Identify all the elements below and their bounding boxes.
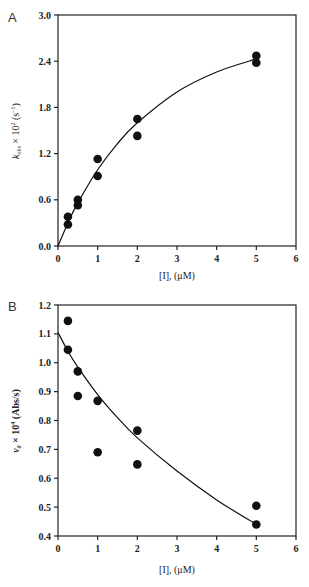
x-tick-label: 6 xyxy=(294,253,299,264)
data-point xyxy=(252,520,261,529)
y-tick-label: 3.0 xyxy=(39,10,52,21)
y-axis-label-b: v0 × 104 (Abs/s) xyxy=(10,389,22,453)
y-label-a-unit: (s xyxy=(10,113,22,123)
y-tick-label: 1.1 xyxy=(39,328,52,339)
data-point xyxy=(64,345,73,354)
data-point xyxy=(133,132,142,141)
y-tick-label: 0.5 xyxy=(39,502,52,513)
plot-frame-a xyxy=(58,15,296,246)
y-label-b-unit: (Abs/s) xyxy=(10,389,22,422)
data-point xyxy=(93,172,102,181)
data-points-b xyxy=(64,317,261,529)
x-axis-label-b: [I], (μM) xyxy=(159,564,195,576)
data-point xyxy=(133,460,142,469)
data-point xyxy=(252,58,261,67)
x-tick-label: 3 xyxy=(175,543,180,554)
y-label-a-close: ) xyxy=(10,103,22,106)
y-tick-label: 1.0 xyxy=(39,357,52,368)
y-tick-label: 0.7 xyxy=(39,444,52,455)
data-point xyxy=(133,426,142,435)
y-tick-label: 1.2 xyxy=(39,300,52,311)
fit-curve-b xyxy=(58,332,256,524)
y-ticks-b: 0.40.50.60.70.80.91.01.11.2 xyxy=(39,300,59,542)
fit-curve-a xyxy=(58,59,256,246)
figure: A 0123456 0.00.61.21.82.43.0 [I], (μM) k… xyxy=(0,0,309,587)
data-point xyxy=(252,501,261,510)
y-label-a-mid: × 10 xyxy=(10,126,21,147)
data-point xyxy=(64,317,73,326)
x-tick-label: 0 xyxy=(56,543,61,554)
y-tick-label: 2.4 xyxy=(39,56,52,67)
x-tick-label: 5 xyxy=(254,543,259,554)
plot-frame-b xyxy=(58,305,296,536)
y-ticks-a: 0.00.61.21.82.43.0 xyxy=(39,10,59,252)
y-tick-label: 0.4 xyxy=(39,531,52,542)
data-point xyxy=(93,155,102,164)
data-point xyxy=(133,115,142,124)
data-point xyxy=(64,212,73,221)
x-tick-label: 1 xyxy=(95,543,100,554)
panel-a: A 0123456 0.00.61.21.82.43.0 [I], (μM) k… xyxy=(8,10,299,283)
x-tick-label: 4 xyxy=(214,543,219,554)
y-axis-label-a: kobs × 102 (s−1) xyxy=(10,103,22,159)
x-axis-label-a: [I], (μM) xyxy=(159,270,195,282)
panel-label-b: B xyxy=(8,299,17,314)
y-tick-label: 0.8 xyxy=(39,415,52,426)
x-tick-label: 0 xyxy=(56,253,61,264)
x-tick-label: 4 xyxy=(214,253,219,264)
data-point xyxy=(64,220,73,229)
x-ticks-b: 0123456 xyxy=(56,536,299,554)
y-tick-label: 0.6 xyxy=(39,473,52,484)
data-point xyxy=(93,397,102,406)
data-point xyxy=(74,367,83,376)
data-point xyxy=(74,392,83,401)
x-ticks-a: 0123456 xyxy=(56,246,299,264)
data-points-a xyxy=(64,52,261,229)
data-point xyxy=(93,448,102,457)
panel-label-a: A xyxy=(8,10,17,25)
y-tick-label: 0.6 xyxy=(39,194,52,205)
y-tick-label: 0.9 xyxy=(39,386,52,397)
y-tick-label: 1.2 xyxy=(39,148,52,159)
x-tick-label: 2 xyxy=(135,253,140,264)
y-tick-label: 0.0 xyxy=(39,241,52,252)
y-tick-label: 1.8 xyxy=(39,102,52,113)
x-tick-label: 6 xyxy=(294,543,299,554)
x-tick-label: 1 xyxy=(95,253,100,264)
x-tick-label: 5 xyxy=(254,253,259,264)
data-point xyxy=(74,201,83,210)
x-tick-label: 2 xyxy=(135,543,140,554)
y-label-b-mid: × 10 xyxy=(10,425,21,446)
x-tick-label: 3 xyxy=(175,253,180,264)
panel-b: B 0123456 0.40.50.60.70.80.91.01.11.2 [I… xyxy=(8,299,299,576)
